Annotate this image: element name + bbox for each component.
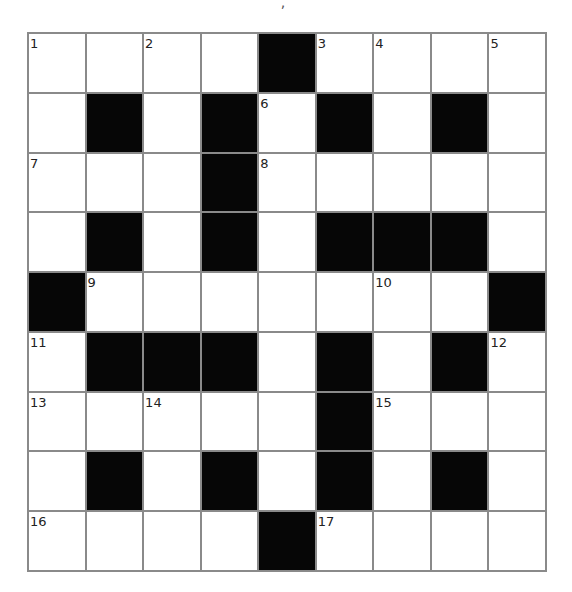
letter-input[interactable] xyxy=(374,393,430,451)
grid-cell[interactable] xyxy=(374,452,430,510)
letter-input[interactable] xyxy=(317,512,373,570)
grid-cell[interactable]: 5 xyxy=(489,34,545,92)
grid-cell[interactable]: 11 xyxy=(29,333,85,391)
grid-cell[interactable] xyxy=(259,452,315,510)
grid-cell[interactable] xyxy=(489,94,545,152)
letter-input[interactable] xyxy=(29,213,85,271)
grid-cell[interactable] xyxy=(432,393,488,451)
grid-cell[interactable] xyxy=(489,393,545,451)
letter-input[interactable] xyxy=(144,452,200,510)
grid-cell[interactable] xyxy=(259,213,315,271)
grid-cell[interactable] xyxy=(29,213,85,271)
letter-input[interactable] xyxy=(202,273,258,331)
grid-cell[interactable] xyxy=(317,154,373,212)
grid-cell[interactable] xyxy=(259,273,315,331)
grid-cell[interactable]: 8 xyxy=(259,154,315,212)
letter-input[interactable] xyxy=(259,273,315,331)
letter-input[interactable] xyxy=(259,452,315,510)
grid-cell[interactable] xyxy=(87,34,143,92)
letter-input[interactable] xyxy=(144,94,200,152)
letter-input[interactable] xyxy=(87,393,143,451)
letter-input[interactable] xyxy=(259,333,315,391)
grid-cell[interactable] xyxy=(87,512,143,570)
grid-cell[interactable] xyxy=(144,452,200,510)
letter-input[interactable] xyxy=(374,154,430,212)
grid-cell[interactable] xyxy=(432,512,488,570)
grid-cell[interactable] xyxy=(374,512,430,570)
letter-input[interactable] xyxy=(144,213,200,271)
letter-input[interactable] xyxy=(489,154,545,212)
grid-cell[interactable]: 7 xyxy=(29,154,85,212)
letter-input[interactable] xyxy=(489,393,545,451)
grid-cell[interactable] xyxy=(374,154,430,212)
grid-cell[interactable]: 10 xyxy=(374,273,430,331)
grid-cell[interactable] xyxy=(144,213,200,271)
letter-input[interactable] xyxy=(144,154,200,212)
grid-cell[interactable] xyxy=(202,393,258,451)
letter-input[interactable] xyxy=(144,34,200,92)
grid-cell[interactable] xyxy=(202,273,258,331)
grid-cell[interactable] xyxy=(144,273,200,331)
letter-input[interactable] xyxy=(29,154,85,212)
grid-cell[interactable]: 9 xyxy=(87,273,143,331)
letter-input[interactable] xyxy=(144,273,200,331)
letter-input[interactable] xyxy=(489,333,545,391)
letter-input[interactable] xyxy=(144,393,200,451)
letter-input[interactable] xyxy=(374,94,430,152)
letter-input[interactable] xyxy=(432,34,488,92)
grid-cell[interactable] xyxy=(489,154,545,212)
grid-cell[interactable] xyxy=(29,452,85,510)
letter-input[interactable] xyxy=(374,452,430,510)
grid-cell[interactable] xyxy=(259,333,315,391)
letter-input[interactable] xyxy=(374,273,430,331)
letter-input[interactable] xyxy=(489,512,545,570)
grid-cell[interactable]: 6 xyxy=(259,94,315,152)
grid-cell[interactable]: 12 xyxy=(489,333,545,391)
letter-input[interactable] xyxy=(432,393,488,451)
letter-input[interactable] xyxy=(432,154,488,212)
letter-input[interactable] xyxy=(374,512,430,570)
grid-cell[interactable] xyxy=(489,213,545,271)
grid-cell[interactable] xyxy=(87,393,143,451)
grid-cell[interactable] xyxy=(202,512,258,570)
grid-cell[interactable] xyxy=(144,154,200,212)
grid-cell[interactable] xyxy=(29,94,85,152)
letter-input[interactable] xyxy=(202,512,258,570)
letter-input[interactable] xyxy=(29,94,85,152)
letter-input[interactable] xyxy=(29,34,85,92)
grid-cell[interactable]: 3 xyxy=(317,34,373,92)
letter-input[interactable] xyxy=(489,213,545,271)
letter-input[interactable] xyxy=(432,273,488,331)
letter-input[interactable] xyxy=(489,34,545,92)
letter-input[interactable] xyxy=(317,273,373,331)
grid-cell[interactable] xyxy=(374,94,430,152)
grid-cell[interactable] xyxy=(202,34,258,92)
letter-input[interactable] xyxy=(259,94,315,152)
grid-cell[interactable] xyxy=(432,154,488,212)
letter-input[interactable] xyxy=(29,452,85,510)
grid-cell[interactable]: 16 xyxy=(29,512,85,570)
letter-input[interactable] xyxy=(87,34,143,92)
grid-cell[interactable] xyxy=(489,452,545,510)
grid-cell[interactable]: 4 xyxy=(374,34,430,92)
grid-cell[interactable]: 15 xyxy=(374,393,430,451)
letter-input[interactable] xyxy=(259,154,315,212)
letter-input[interactable] xyxy=(374,333,430,391)
grid-cell[interactable] xyxy=(489,512,545,570)
letter-input[interactable] xyxy=(202,34,258,92)
letter-input[interactable] xyxy=(317,154,373,212)
letter-input[interactable] xyxy=(87,154,143,212)
letter-input[interactable] xyxy=(29,393,85,451)
letter-input[interactable] xyxy=(259,393,315,451)
letter-input[interactable] xyxy=(374,34,430,92)
grid-cell[interactable]: 2 xyxy=(144,34,200,92)
grid-cell[interactable]: 17 xyxy=(317,512,373,570)
letter-input[interactable] xyxy=(489,452,545,510)
grid-cell[interactable] xyxy=(317,273,373,331)
grid-cell[interactable] xyxy=(432,34,488,92)
grid-cell[interactable] xyxy=(374,333,430,391)
letter-input[interactable] xyxy=(144,512,200,570)
letter-input[interactable] xyxy=(202,393,258,451)
grid-cell[interactable] xyxy=(144,512,200,570)
letter-input[interactable] xyxy=(29,333,85,391)
